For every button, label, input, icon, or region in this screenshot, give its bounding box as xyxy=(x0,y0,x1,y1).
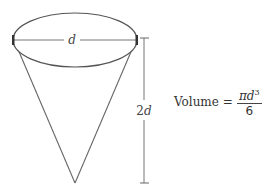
formula-equals: = xyxy=(223,95,233,109)
volume-formula: Volume = πd3 6 xyxy=(174,86,262,118)
formula-denominator: 6 xyxy=(245,104,253,118)
diameter-label: d xyxy=(68,33,76,47)
formula-lhs: Volume xyxy=(174,95,219,109)
pi-symbol: π xyxy=(239,89,247,103)
diameter-right-endcap xyxy=(136,35,139,45)
height-label: 2d xyxy=(136,104,152,118)
diameter-left-endcap xyxy=(12,35,15,45)
numerator-exponent: 3 xyxy=(254,88,259,97)
formula-fraction: πd3 6 xyxy=(237,86,262,118)
formula-numerator: πd3 xyxy=(237,86,262,104)
